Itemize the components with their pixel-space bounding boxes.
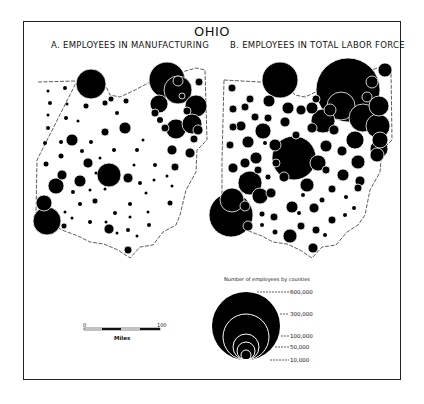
legend-label-10000: 10,000 [290, 357, 309, 363]
scale-end-label: 100 [157, 322, 167, 328]
ohio-maps [0, 0, 424, 404]
scale-bar [84, 328, 160, 330]
legend-label-300000: 300,000 [290, 311, 313, 317]
legend-label-600000: 600,000 [290, 289, 313, 295]
scale-unit-label: Miles [114, 335, 130, 341]
scale-start-label: 0 [83, 322, 86, 328]
legend-title: Number of employees by counties [224, 276, 310, 282]
legend-label-100000: 100,000 [290, 333, 313, 339]
circles-panel-a [33, 62, 207, 254]
legend-circles [212, 292, 280, 360]
legend-label-50000: 50,000 [290, 344, 309, 350]
circles-panel-b [209, 58, 392, 253]
